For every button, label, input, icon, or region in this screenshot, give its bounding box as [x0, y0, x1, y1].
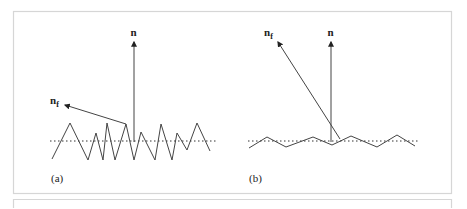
- next-figure-frame: [14, 200, 452, 209]
- figure-frame: [14, 12, 452, 194]
- figure-canvas: n nf (a) n nf (b): [0, 0, 467, 208]
- caption-b: (b): [249, 172, 262, 185]
- facet-normal-label-b: nf: [264, 26, 273, 41]
- facet-normal-subscript-a: f: [56, 100, 59, 109]
- caption-a: (a): [51, 172, 64, 185]
- panel-a: n nf (a): [50, 26, 216, 185]
- normal-label-b: n: [328, 26, 334, 38]
- facet-normal-arrow-a: [65, 105, 126, 124]
- panel-b: n nf (b): [248, 26, 418, 185]
- facet-normal-label-a: nf: [50, 94, 59, 109]
- facet-normal-subscript-b: f: [270, 32, 273, 41]
- normal-label-a: n: [131, 26, 137, 38]
